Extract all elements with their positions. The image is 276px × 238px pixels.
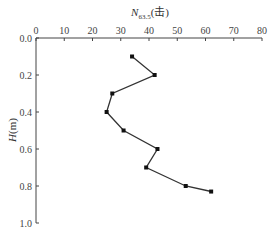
y-tick-label: 0.0 xyxy=(20,33,33,44)
x-tick-label: 50 xyxy=(172,25,182,36)
y-axis-title: H(m) xyxy=(6,118,19,143)
data-series xyxy=(105,55,214,194)
y-tick-label: 1.0 xyxy=(20,218,33,229)
data-point-marker xyxy=(130,55,134,59)
x-tick-label: 10 xyxy=(59,25,69,36)
y-tick-label: 0.6 xyxy=(20,144,33,155)
data-point-marker xyxy=(110,92,114,96)
x-tick-label: 30 xyxy=(116,25,126,36)
x-tick-label: 60 xyxy=(201,25,211,36)
y-tick-label: 0.4 xyxy=(20,107,33,118)
data-point-marker xyxy=(105,110,109,114)
data-point-marker xyxy=(153,73,157,77)
x-tick-label: 20 xyxy=(88,25,98,36)
y-tick-label: 0.8 xyxy=(20,181,33,192)
x-tick-label: 40 xyxy=(144,25,154,36)
x-axis-title: N63.5(击) xyxy=(130,6,169,21)
data-point-marker xyxy=(122,129,126,133)
data-point-marker xyxy=(144,166,148,170)
data-point-marker xyxy=(184,184,188,188)
data-point-marker xyxy=(209,190,213,194)
data-point-marker xyxy=(155,147,159,151)
x-tick-label: 70 xyxy=(229,25,239,36)
penetration-chart: 010203040506070800.00.20.40.60.81.0 N63.… xyxy=(0,0,276,238)
x-tick-label: 0 xyxy=(34,25,39,36)
axes: 010203040506070800.00.20.40.60.81.0 xyxy=(20,25,268,229)
y-tick-label: 0.2 xyxy=(20,70,33,81)
series-line xyxy=(107,57,212,192)
x-tick-label: 80 xyxy=(257,25,267,36)
